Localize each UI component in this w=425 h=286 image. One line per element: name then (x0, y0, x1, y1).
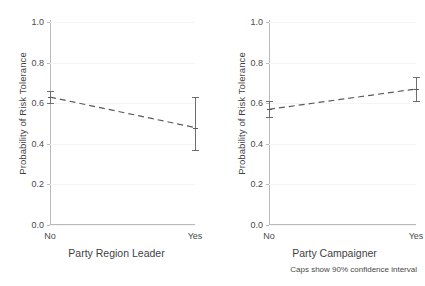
y-tick-label: 0.6 (31, 98, 44, 108)
x-tick-label-no: No (263, 231, 275, 241)
error-bar-cap (47, 91, 54, 92)
chart-panel-party-campaigner: Probability of Risk Tolerance 0.00.20.40… (213, 0, 425, 286)
error-bar-cap (192, 150, 199, 151)
series-line-left (50, 22, 195, 225)
trend-line (269, 89, 416, 109)
y-axis-title: Probability of Risk Tolerance (17, 24, 28, 204)
y-tick-mark (266, 225, 269, 226)
y-tick-label: 0.0 (250, 220, 263, 230)
y-tick-label: 0.4 (250, 139, 263, 149)
y-tick-label: 1.0 (31, 17, 44, 27)
y-tick-label: 0.6 (250, 98, 263, 108)
y-axis-title: Probability of Risk Tolerance (236, 24, 247, 204)
x-tick-label-no: No (44, 231, 56, 241)
gridline (50, 225, 195, 226)
y-tick-mark (47, 225, 50, 226)
chart-panel-party-region-leader: Probability of Risk Tolerance 0.00.20.40… (0, 0, 212, 286)
y-tick-label: 0.2 (250, 179, 263, 189)
x-tick-label-yes: Yes (409, 231, 424, 241)
y-tick-label: 1.0 (250, 17, 263, 27)
data-point (48, 97, 53, 98)
data-point (267, 109, 272, 110)
error-bar-cap (413, 101, 420, 102)
y-tick-label: 0.2 (31, 179, 44, 189)
y-tick-label: 0.8 (250, 58, 263, 68)
trend-line (50, 97, 195, 127)
figure-canvas: Probability of Risk Tolerance 0.00.20.40… (0, 0, 425, 286)
data-point (193, 128, 198, 129)
figure-caption: Caps show 90% confidence interval (290, 265, 417, 274)
x-axis-title: Party Campaigner (261, 247, 408, 259)
error-bar-cap (266, 117, 273, 118)
error-bar-cap (192, 97, 199, 98)
error-bar (195, 97, 196, 150)
error-bar-cap (413, 77, 420, 78)
plot-area-right: 0.00.20.40.60.81.0 No Yes Party Campaign… (269, 22, 416, 225)
series-line-right (269, 22, 416, 225)
plot-area-left: 0.00.20.40.60.81.0 No Yes Party Region L… (50, 22, 195, 225)
x-axis-title: Party Region Leader (44, 247, 189, 259)
x-tick-label-yes: Yes (188, 231, 203, 241)
gridline (269, 225, 416, 226)
data-point (414, 89, 419, 90)
y-tick-label: 0.8 (31, 58, 44, 68)
error-bar-cap (47, 103, 54, 104)
error-bar-cap (266, 101, 273, 102)
y-tick-label: 0.4 (31, 139, 44, 149)
y-tick-label: 0.0 (31, 220, 44, 230)
